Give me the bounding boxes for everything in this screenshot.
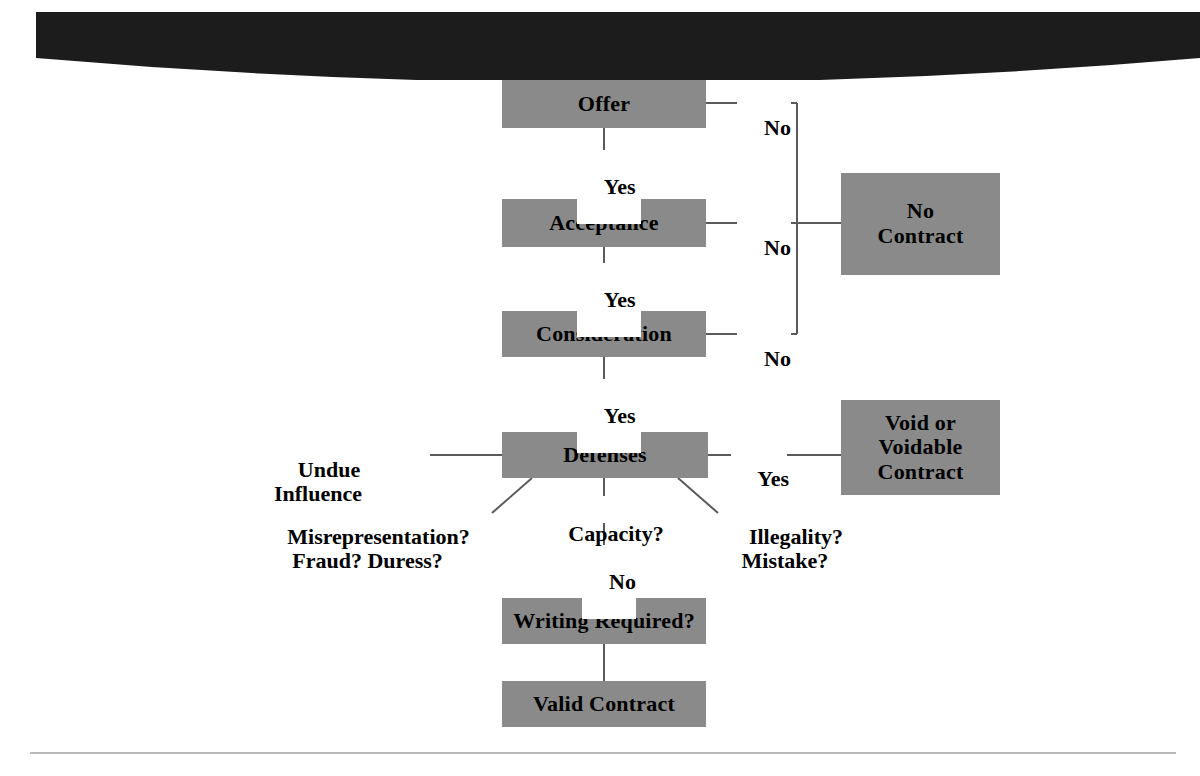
annotation-misrepresentation-fraud-duress-text: Misrepresentation? Fraud? Duress? [287,524,470,574]
edge-label-acceptance-no-text: No [764,235,791,260]
annotation-capacity-text: Capacity? [568,521,663,546]
edge-label-offer-yes: Yes [577,150,641,224]
flowchart-page: Offer Acceptance Consideration Defenses … [0,0,1200,776]
edge-label-acceptance-yes: Yes [577,263,641,337]
annotation-illegality-mistake: Illegality? Mistake? [720,500,850,599]
edge-label-offer-no-text: No [764,115,791,140]
node-valid-contract[interactable]: Valid Contract [502,681,706,727]
node-valid-contract-label: Valid Contract [533,692,675,717]
edge-label-consideration-no-text: No [764,346,791,371]
node-offer-label: Offer [578,92,630,117]
edge-label-acceptance-yes-text: Yes [604,287,636,312]
node-no-contract[interactable]: No Contract [841,173,1000,275]
annotation-capacity: Capacity? [537,497,673,571]
node-void-or-voidable-contract[interactable]: Void or Voidable Contract [841,400,1000,495]
edge-label-defenses-yes-text: Yes [757,466,789,491]
edge-label-offer-no: No [737,91,791,165]
node-no-contract-label: No Contract [878,199,964,248]
edge-label-consideration-yes-text: Yes [604,403,636,428]
edge-misrep-diagonal [492,478,532,513]
annotation-illegality-mistake-text: Illegality? Mistake? [742,524,843,574]
edge-label-offer-yes-text: Yes [604,174,636,199]
edge-label-acceptance-no: No [737,211,791,285]
node-void-or-voidable-contract-label: Void or Voidable Contract [878,411,964,485]
edge-label-defenses-no-text: No [609,569,636,594]
edge-illegality-diagonal [678,478,718,513]
annotation-misrepresentation-fraud-duress: Misrepresentation? Fraud? Duress? [245,500,490,599]
annotation-undue-influence-text: Undue Influence [274,457,362,507]
node-offer[interactable]: Offer [502,80,706,128]
edge-label-consideration-no: No [737,322,791,396]
footer-divider [30,752,1176,754]
edge-label-consideration-yes: Yes [577,379,641,453]
